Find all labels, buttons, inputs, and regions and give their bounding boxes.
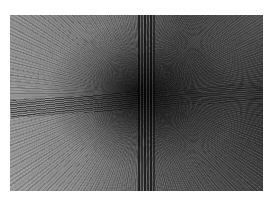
image-description: Grayscale abstract zoom-burst photograph… xyxy=(0,0,1,1)
image-canvas: Grayscale abstract zoom-burst photograph… xyxy=(0,0,272,203)
corner-fade xyxy=(10,15,263,191)
zoom-burst-photo xyxy=(10,15,263,191)
